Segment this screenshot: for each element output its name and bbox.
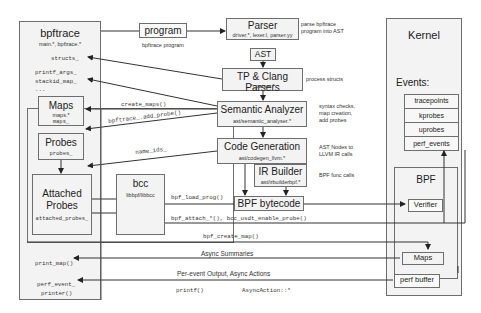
connector-lines bbox=[0, 0, 481, 313]
bpftrace-architecture-diagram: bpftrace main.*, bpftrace.* structs_ pri… bbox=[0, 0, 481, 313]
